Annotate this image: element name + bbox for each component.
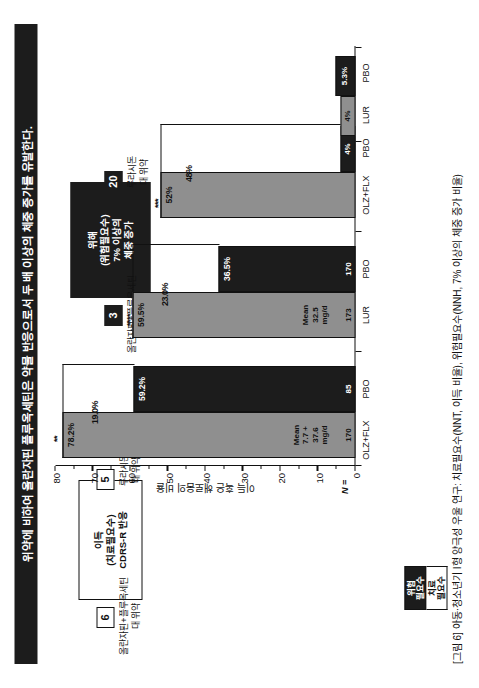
bar-g4-lur-nnh: 4% bbox=[340, 96, 355, 136]
bar-value-label: 36.5% bbox=[221, 247, 231, 291]
x-group-tick-4 bbox=[355, 47, 361, 48]
y-tick-label-60: 60 bbox=[125, 473, 136, 493]
difference-bracket-g2 bbox=[132, 244, 219, 338]
y-tick-20 bbox=[279, 466, 280, 471]
bar-value-label: 5.3% bbox=[339, 57, 348, 95]
figure-title-band: 위약에 비하여 올란자핀 플루옥세틴은 약물 반응으로서 두 배 이상의 체중 … bbox=[14, 24, 37, 664]
bar-n-label: 85 bbox=[343, 367, 352, 411]
benefit-olz-nnt-chip: 6 bbox=[96, 607, 114, 628]
y-tick-minor-7 bbox=[110, 466, 111, 469]
bar-n-label: 170 bbox=[343, 413, 352, 457]
x-label-6: LUR bbox=[360, 92, 370, 138]
x-label-7: PBO bbox=[360, 50, 370, 96]
x-group-tick-1 bbox=[355, 351, 361, 352]
bar-value-label: 59.2% bbox=[136, 367, 146, 411]
y-tick-80 bbox=[54, 466, 55, 471]
y-tick-minor-5 bbox=[185, 466, 186, 469]
x-label-2: LUR bbox=[360, 288, 370, 342]
x-label-0: OLZ+FLX bbox=[360, 408, 370, 472]
y-tick-60 bbox=[129, 466, 130, 471]
y-tick-label-80: 80 bbox=[50, 473, 61, 493]
y-tick-minor-2 bbox=[298, 466, 299, 469]
bar-n-label: 170 bbox=[343, 247, 352, 291]
y-tick-40 bbox=[204, 466, 205, 471]
y-tick-30 bbox=[241, 466, 242, 471]
x-group-tick-2 bbox=[355, 231, 361, 232]
bar-value-label: 4% bbox=[342, 97, 351, 135]
benefit-olz-comparison-label: 올란자핀+플루옥세틴 대 위약 bbox=[118, 568, 141, 664]
difference-value-g1: 19.0% bbox=[89, 401, 99, 424]
bar-g2-pbo-nnh: 36.5% 170 bbox=[218, 246, 355, 292]
figure-page: 위약에 비하여 올란자핀 플루옥세틴은 약물 반응으로서 두 배 이상의 체중 … bbox=[0, 0, 479, 688]
difference-value-g2: 23.0% bbox=[159, 283, 169, 306]
y-tick-10 bbox=[316, 466, 317, 471]
legend-item-nnh: 위험 필요수 bbox=[404, 566, 426, 610]
bar-mean-dose-label: Mean 32.5 mg/d bbox=[300, 293, 328, 337]
y-tick-70 bbox=[91, 466, 92, 471]
y-axis-title: 이득 혹은 해로움의 비율 bbox=[156, 481, 254, 496]
y-tick-minor-4 bbox=[223, 466, 224, 469]
y-tick-label-10: 10 bbox=[313, 473, 324, 493]
y-tick-label-70: 70 bbox=[88, 473, 99, 493]
difference-value-g3: 48% bbox=[183, 165, 193, 182]
y-tick-minor-8 bbox=[73, 466, 74, 469]
y-tick-label-20: 20 bbox=[275, 473, 286, 493]
y-tick-label-0: 0 bbox=[350, 473, 361, 493]
y-tick-minor-6 bbox=[148, 466, 149, 469]
figure-caption: [그림 6] 아동·청소년기 I형 양극성 우울 연구: 치료필요수(NNT, … bbox=[448, 16, 463, 664]
bar-n-label: 173 bbox=[343, 293, 352, 337]
x-label-3: PBO bbox=[360, 242, 370, 296]
y-tick-minor-1 bbox=[335, 466, 336, 469]
bar-g1-pbo-nnh: 59.2% 85 bbox=[133, 366, 355, 412]
y-tick-minor-3 bbox=[260, 466, 261, 469]
y-tick-50 bbox=[166, 466, 167, 471]
bar-chart-plot: 0 10 20 30 40 50 60 70 80 이득 혹은 해로움의 비율 … bbox=[55, 46, 355, 466]
legend-item-nnt: 치료 필요수 bbox=[426, 566, 447, 610]
n-equals-label: N = bbox=[339, 480, 349, 494]
bar-g4-pbo-nnh: 5.3% bbox=[335, 56, 355, 96]
bar-mean-dose-label: Mean 7.7 + 37.6 mg/d bbox=[291, 413, 328, 457]
x-label-1: PBO bbox=[360, 362, 370, 416]
chart-legend: 위험 필요수 치료 필요수 bbox=[404, 566, 447, 610]
significance-marker-g1-olz: ** bbox=[51, 436, 61, 442]
rotated-page-wrapper: 위약에 비하여 올란자핀 플루옥세틴은 약물 반응으로서 두 배 이상의 체중 … bbox=[0, 0, 479, 688]
y-tick-0 bbox=[354, 466, 355, 471]
